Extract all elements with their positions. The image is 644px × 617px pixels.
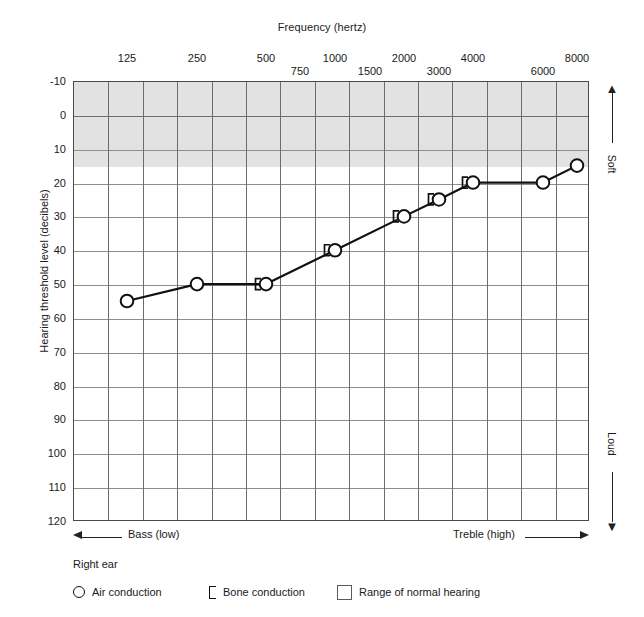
legend-normal-range-label: Range of normal hearing <box>359 586 480 598</box>
treble-arrow-icon <box>580 531 589 539</box>
y-tick-80: 80 <box>32 380 66 392</box>
soft-direction-indicator: ▲ Soft <box>605 84 619 204</box>
soft-arrow-shaft <box>612 93 613 143</box>
legend-item-normal-range: Range of normal hearing <box>337 583 480 601</box>
x-tick-750: 750 <box>291 65 309 77</box>
air-conduction-marker-500 <box>260 278 273 291</box>
y-tick--10: -10 <box>32 75 66 87</box>
bracket-marker-icon <box>209 586 216 599</box>
air-conduction-marker-8000 <box>571 159 584 172</box>
legend-item-air-conduction: Air conduction <box>73 583 162 601</box>
y-tick-0: 0 <box>32 109 66 121</box>
x-tick-4000: 4000 <box>461 52 485 64</box>
data-series-layer <box>73 81 589 521</box>
air-conduction-marker-4000 <box>467 176 480 189</box>
legend: Right ear Air conduction Bone conduction… <box>73 558 593 601</box>
y-tick-50: 50 <box>32 278 66 290</box>
legend-bone-conduction-label: Bone conduction <box>223 586 305 598</box>
audiogram-chart: Frequency (hertz) Hearing threshold leve… <box>0 0 644 617</box>
y-tick-30: 30 <box>32 210 66 222</box>
y-tick-20: 20 <box>32 177 66 189</box>
y-tick-110: 110 <box>32 481 66 493</box>
air-conduction-marker-250 <box>191 278 204 291</box>
y-tick-10: 10 <box>32 143 66 155</box>
loud-arrow-shaft <box>612 472 613 522</box>
x-tick-6000: 6000 <box>531 65 555 77</box>
frequency-range-indicator: Bass (low) Treble (high) <box>73 528 589 546</box>
circle-marker-icon <box>73 586 85 598</box>
y-tick-120: 120 <box>32 515 66 527</box>
treble-arrow-shaft <box>525 537 580 538</box>
x-tick-8000: 8000 <box>565 52 589 64</box>
square-swatch-icon <box>337 585 352 600</box>
frequency-axis-title: Frequency (hertz) <box>0 21 644 33</box>
air-conduction-marker-6000 <box>537 176 550 189</box>
y-tick-40: 40 <box>32 244 66 256</box>
legend-air-conduction-label: Air conduction <box>92 586 162 598</box>
treble-label: Treble (high) <box>453 528 515 540</box>
bass-label: Bass (low) <box>128 528 179 540</box>
bass-arrow-icon <box>73 531 82 539</box>
soft-label: Soft <box>606 147 618 181</box>
air-conduction-marker-2000 <box>398 210 411 223</box>
loud-label: Loud <box>606 427 618 461</box>
y-tick-70: 70 <box>32 346 66 358</box>
y-tick-90: 90 <box>32 413 66 425</box>
x-tick-250: 250 <box>188 52 206 64</box>
y-tick-60: 60 <box>32 312 66 324</box>
arrow-up-icon: ▲ <box>605 84 619 93</box>
x-tick-3000: 3000 <box>427 65 451 77</box>
arrow-down-icon: ▼ <box>605 522 619 531</box>
air-conduction-marker-125 <box>121 295 134 308</box>
air-conduction-marker-3000 <box>433 193 446 206</box>
x-tick-125: 125 <box>118 52 136 64</box>
x-tick-1000: 1000 <box>323 52 347 64</box>
x-tick-2000: 2000 <box>392 52 416 64</box>
x-tick-1500: 1500 <box>358 65 382 77</box>
legend-ear-label: Right ear <box>73 558 593 570</box>
bass-arrow-shaft <box>82 537 122 538</box>
legend-item-bone-conduction: Bone conduction <box>209 583 305 601</box>
loud-direction-indicator: Loud ▼ <box>605 432 619 542</box>
air-conduction-marker-1000 <box>329 244 342 257</box>
y-tick-100: 100 <box>32 447 66 459</box>
x-tick-500: 500 <box>257 52 275 64</box>
